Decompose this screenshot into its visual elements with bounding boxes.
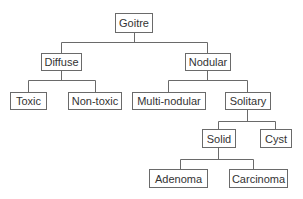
node-carcinoma: Carcinoma xyxy=(229,169,288,188)
node-solid: Solid xyxy=(202,129,236,148)
node-cyst: Cyst xyxy=(260,129,292,148)
node-adenoma: Adenoma xyxy=(149,169,208,188)
node-solitary: Solitary xyxy=(225,92,271,110)
node-diffuse: Diffuse xyxy=(41,53,82,71)
node-nodular: Nodular xyxy=(185,53,231,71)
node-toxic: Toxic xyxy=(10,92,47,110)
node-non-toxic: Non-toxic xyxy=(68,92,122,110)
node-multi-nodular: Multi-nodular xyxy=(132,92,206,110)
node-goitre: Goitre xyxy=(115,13,153,33)
